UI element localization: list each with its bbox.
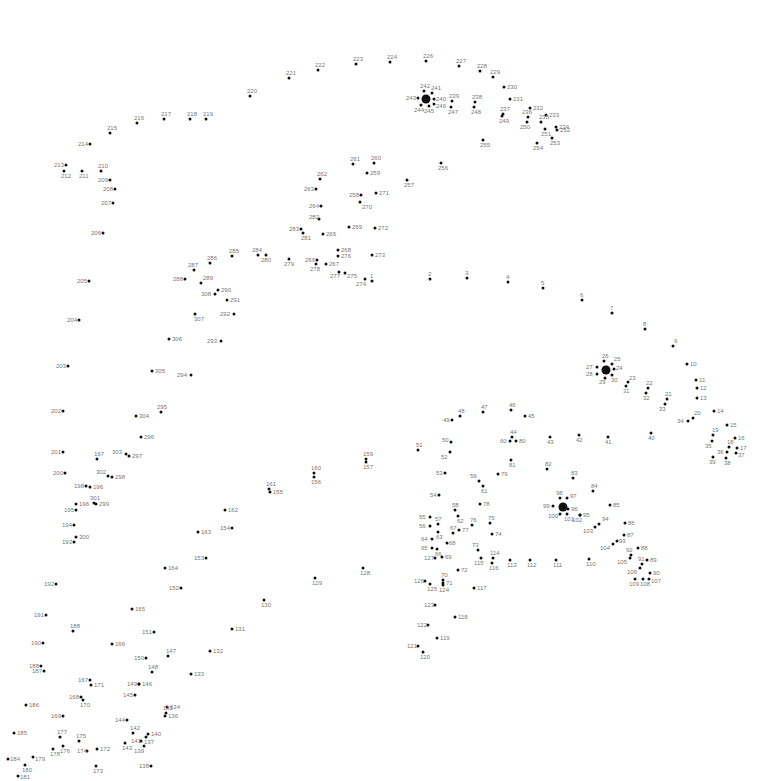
dot-label: 202: [51, 408, 61, 414]
dot-label: 272: [378, 225, 388, 231]
dot-point: [686, 363, 689, 366]
dot-label: 34: [677, 418, 684, 424]
dot-point: [55, 583, 58, 586]
dot-label: 217: [161, 111, 171, 117]
dot-label: 221: [286, 70, 296, 76]
dot-label: 12: [700, 385, 707, 391]
dot-point: [140, 436, 143, 439]
dot-label: 31: [623, 388, 630, 394]
dot-label: 87: [627, 532, 634, 538]
eye-dot: [602, 366, 611, 375]
dot-point: [458, 529, 461, 532]
dot-label: 247: [448, 109, 458, 115]
dot-label: 238: [472, 94, 482, 100]
dot-point: [205, 557, 208, 560]
dot-label: 228: [477, 63, 487, 69]
dot-label: 301: [90, 495, 100, 501]
dot-label: 164: [168, 565, 178, 571]
dot-point: [131, 608, 134, 611]
dot-label: 218: [187, 111, 197, 117]
dot-point: [96, 748, 99, 751]
dot-point: [429, 278, 432, 281]
dot-label: 222: [315, 62, 325, 68]
dot-label: 294: [177, 372, 187, 378]
dot-label: 307: [194, 316, 204, 322]
dot-label: 106: [627, 569, 637, 575]
dot-point: [611, 312, 614, 315]
dot-label: 45: [528, 413, 535, 419]
dot-point: [231, 527, 234, 530]
dot-label: 186: [29, 702, 39, 708]
dot-point: [319, 178, 322, 181]
dot-label: 128: [360, 570, 370, 576]
dot-label: 177: [57, 729, 67, 735]
dot-label: 100: [548, 513, 558, 519]
dot-label: 50: [442, 437, 449, 443]
dot-point: [473, 587, 476, 590]
dot-label: 211: [79, 173, 89, 179]
dot-point: [451, 100, 454, 103]
dot-label: 231: [513, 96, 523, 102]
dot-label: 33: [659, 406, 666, 412]
dot-point: [365, 458, 368, 461]
dot-label: 4: [506, 274, 509, 280]
dot-label: 79: [501, 471, 508, 477]
dot-point: [611, 363, 614, 366]
dot-label: 271: [379, 190, 389, 196]
dot-label: 22: [646, 380, 653, 386]
dot-label: 260: [371, 155, 381, 161]
dot-label: 102: [572, 517, 582, 523]
dot-point: [90, 684, 93, 687]
dot-point: [112, 202, 115, 205]
dot-point: [489, 522, 492, 525]
dot-point: [313, 472, 316, 475]
dot-point: [231, 255, 234, 258]
dot-point: [96, 458, 99, 461]
dot-label: 253: [550, 140, 560, 146]
dot-label: 196: [79, 501, 89, 507]
dot-label: 136: [168, 713, 178, 719]
dot-point: [592, 490, 595, 493]
dot-label: 262: [317, 171, 327, 177]
dot-label: 91: [638, 556, 645, 562]
dot-point: [450, 441, 453, 444]
dot-label: 16: [738, 435, 745, 441]
dot-label: 156: [311, 479, 321, 485]
dot-label: 70: [441, 572, 448, 578]
dot-label: 227: [456, 58, 466, 64]
dot-label: 9: [674, 338, 677, 344]
dot-label: 223: [353, 56, 363, 62]
dot-point: [471, 524, 474, 527]
dot-label: 52: [441, 454, 448, 460]
dot-point: [153, 631, 156, 634]
dot-label: 261: [350, 156, 360, 162]
dot-label: 236: [522, 109, 532, 115]
dot-label: 178: [50, 751, 60, 757]
dot-label: 305: [155, 368, 165, 374]
dot-point: [257, 254, 260, 257]
dot-label: 121: [407, 643, 417, 649]
dot-point: [712, 434, 715, 437]
dot-label: 245: [424, 108, 434, 114]
dot-label: 115: [474, 560, 484, 566]
dot-point: [572, 477, 575, 480]
dot-label: 125: [427, 586, 437, 592]
dot-point: [542, 287, 545, 290]
dot-label: 286: [207, 255, 217, 261]
dot-point: [325, 263, 328, 266]
dot-label: 98: [556, 490, 563, 496]
dot-label: 51: [416, 442, 423, 448]
dot-point: [88, 280, 91, 283]
dot-label: 24: [616, 365, 623, 371]
dot-label: 138: [139, 763, 149, 769]
dot-point: [164, 715, 167, 718]
dot-label: 249: [499, 118, 509, 124]
dot-label: 8: [643, 321, 646, 327]
dot-point: [713, 410, 716, 413]
dot-label: 104: [600, 545, 610, 551]
dot-point: [43, 670, 46, 673]
dot-point: [233, 313, 236, 316]
dot-label: 127: [424, 555, 434, 561]
dot-point: [511, 436, 514, 439]
dot-label: 44: [510, 429, 517, 435]
